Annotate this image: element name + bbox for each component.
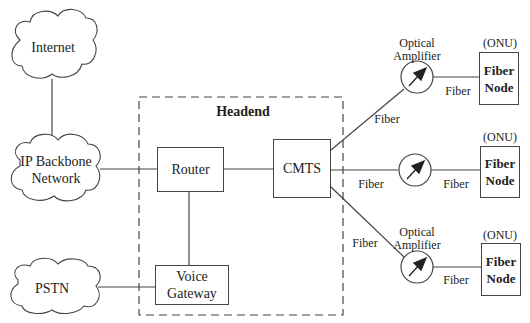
fiber-node-middle: Fiber Node [480,146,520,198]
fiber-label-amp-middle: Fiber [440,177,472,192]
amp-bottom-line2: Amplifier [384,239,450,252]
voice-gateway-box: Voice Gateway [155,265,229,305]
ip-backbone-label: IP Backbone Network [8,153,104,187]
internet-label: Internet [22,40,84,55]
onu-label-top: (ONU) [478,36,522,51]
pstn-label: PSTN [24,281,80,296]
fiber-node-top-line2: Node [485,79,514,96]
fiber-label-cmts-middle: Fiber [355,177,387,192]
voice-gateway-line2: Gateway [167,285,217,302]
router-box: Router [157,147,224,192]
fiber-label-cmts-top: Fiber [371,112,403,127]
amp-top-line2: Amplifier [384,50,450,63]
ip-backbone-label-line1: IP Backbone [8,153,104,170]
fiber-node-bottom-line1: Fiber [486,253,516,270]
headend-title: Headend [208,104,278,119]
cmts-box: CMTS [273,139,331,198]
onu-label-bottom: (ONU) [478,228,522,243]
fiber-node-bottom-line2: Node [487,270,516,287]
fiber-node-middle-line2: Node [486,172,515,189]
fiber-label-amp-top: Fiber [442,84,474,99]
ip-backbone-label-line2: Network [8,170,104,187]
fiber-label-cmts-bottom: Fiber [349,236,381,251]
fiber-node-middle-line1: Fiber [485,155,515,172]
fiber-node-top: Fiber Node [479,52,519,105]
optical-amplifier-bottom-label: Optical Amplifier [384,226,450,252]
fiber-label-amp-bottom: Fiber [440,273,472,288]
fiber-node-top-line1: Fiber [484,62,514,79]
onu-label-middle: (ONU) [478,130,522,145]
fiber-node-bottom: Fiber Node [481,243,521,296]
voice-gateway-line1: Voice [176,268,208,285]
optical-amplifier-top-label: Optical Amplifier [384,37,450,63]
